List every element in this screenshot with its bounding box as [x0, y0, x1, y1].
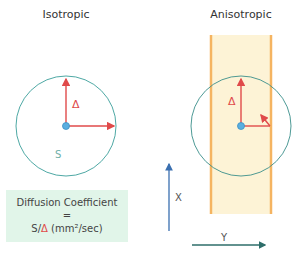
- formula-box: Diffusion Coefficient = S/Δ (mm²/sec): [6, 190, 128, 242]
- formula-line1: Diffusion Coefficient: [6, 196, 128, 209]
- formula-units: (mm²/sec): [48, 223, 103, 234]
- center-dot: [238, 123, 245, 130]
- formula-equals: =: [6, 209, 128, 222]
- formula-delta: Δ: [41, 223, 48, 234]
- center-dot: [63, 123, 70, 130]
- isotropic-area-label: S: [55, 149, 61, 160]
- formula-prefix: S/: [31, 223, 41, 234]
- formula-line3: S/Δ (mm²/sec): [6, 222, 128, 235]
- isotropic-diagram: [16, 76, 116, 176]
- y-axis-label: Y: [221, 232, 227, 243]
- anisotropic-delta-label: Δ: [228, 95, 236, 108]
- isotropic-delta-label: Δ: [72, 98, 80, 111]
- x-axis-label: X: [175, 192, 182, 203]
- anisotropic-diagram: [191, 35, 291, 214]
